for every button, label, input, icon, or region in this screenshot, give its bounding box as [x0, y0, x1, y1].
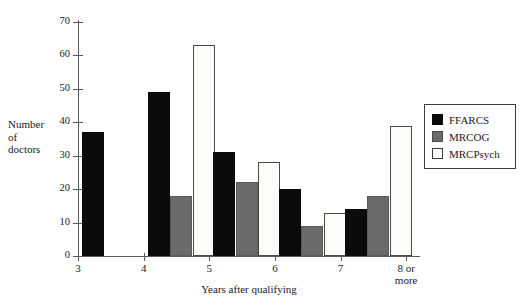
- legend-swatch-icon-gray: [432, 131, 443, 142]
- legend-item-mrcpsych: MRCPsych: [432, 145, 509, 162]
- bar-ffarcs-7: [345, 209, 367, 256]
- x-tick-label-4: 7: [317, 262, 365, 274]
- x-tick-label-2: 5: [185, 262, 233, 274]
- legend-swatch-icon-black: [432, 114, 443, 125]
- bar-mrcog-6: [301, 226, 323, 256]
- x-tick-label-1: 4: [120, 262, 168, 274]
- legend-label: FFARCS: [449, 114, 489, 126]
- x-tick-label-text: 6: [251, 262, 299, 274]
- legend-label: MRCPsych: [449, 148, 500, 160]
- bar-mrcog-5: [236, 182, 258, 256]
- x-axis-title: Years after qualifying: [78, 283, 420, 295]
- x-tick-label-0: 3: [54, 262, 102, 274]
- x-tick-label-3: 6: [251, 262, 299, 274]
- bar-ffarcs-4: [148, 92, 170, 256]
- y-axis-label-line-2: of: [8, 131, 66, 144]
- bar-ffarcs-6: [279, 189, 301, 256]
- x-tick-label-text: 4: [120, 262, 168, 274]
- chart-legend: FFARCSMRCOGMRCPsych: [424, 104, 516, 169]
- x-tick-label-text: 8 or: [382, 262, 430, 274]
- x-axis-line: [78, 256, 420, 257]
- x-tick-label-text: 7: [317, 262, 365, 274]
- legend-swatch-icon-white: [432, 148, 443, 159]
- legend-item-ffarcs: FFARCS: [432, 111, 509, 128]
- bar-mrcog-4: [170, 196, 192, 256]
- bar-ffarcs-3: [82, 132, 104, 256]
- bar-chart-figure: Number of doctors 010203040506070 345678…: [0, 0, 525, 306]
- y-tick-label-30: 30: [52, 149, 70, 160]
- y-tick-label-20: 20: [52, 182, 70, 193]
- bar-mrcog-7: [367, 196, 389, 256]
- bar-mrcpsych-6: [324, 213, 346, 256]
- x-tick-label-text: 3: [54, 262, 102, 274]
- y-tick-label-50: 50: [52, 82, 70, 93]
- bar-mrcpsych-5: [258, 162, 280, 256]
- plot-area: [78, 22, 418, 256]
- bar-ffarcs-5: [213, 152, 235, 256]
- y-tick-label-60: 60: [52, 48, 70, 59]
- y-tick-label-40: 40: [52, 115, 70, 126]
- legend-label: MRCOG: [449, 131, 489, 143]
- y-tick-label-70: 70: [52, 15, 70, 26]
- bar-mrcpsych-7: [390, 126, 412, 256]
- bar-mrcpsych-4: [193, 45, 215, 256]
- y-tick-label-0: 0: [52, 249, 70, 260]
- y-tick-label-10: 10: [52, 216, 70, 227]
- x-tick-label-text: 5: [185, 262, 233, 274]
- legend-item-mrcog: MRCOG: [432, 128, 509, 145]
